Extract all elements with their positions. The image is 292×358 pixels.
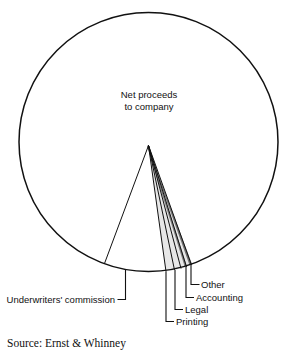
slice-label-accounting: Accounting [196,292,243,303]
center-label-line1: Net proceeds [121,89,178,100]
pie-outline-circle [19,13,278,272]
leader-line-other [191,265,200,285]
source-note: Source: Ernst & Whinney [7,337,126,349]
leader-line-underwriters [118,269,126,300]
pie-chart-figure: Net proceeds to company Other Accounting… [0,0,292,358]
slice-label-printing: Printing [176,316,208,327]
slice-label-underwriters: Underwriters' commission [7,294,115,305]
slice-label-other: Other [201,279,225,290]
leader-line-legal [175,270,183,310]
center-label-line2: to company [124,101,173,112]
pie-chart-svg: Net proceeds to company Other Accounting… [0,0,292,358]
leader-line-printing [166,272,174,322]
leader-line-accounting [186,267,194,298]
slice-label-legal: Legal [185,304,208,315]
